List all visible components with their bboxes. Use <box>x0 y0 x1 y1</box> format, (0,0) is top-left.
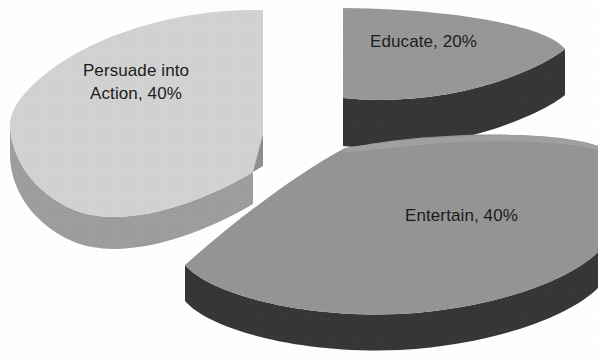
slice-label-educate: Educate, 20% <box>370 31 520 54</box>
slice-label-entertain-line1: Entertain, 40% <box>405 205 580 228</box>
slice-label-entertain: Entertain, 40% <box>405 205 580 228</box>
slice-top-persuade <box>10 10 263 217</box>
slice-label-educate-line1: Educate, 20% <box>370 31 520 54</box>
slice-label-persuade-into-action: Persuade into Action, 40% <box>56 60 216 106</box>
pie-chart-svg <box>0 0 598 360</box>
slice-label-persuade-line1: Persuade into <box>56 60 216 83</box>
pie-chart-figure: Persuade into Action, 40% Educate, 20% E… <box>0 0 598 360</box>
slice-label-persuade-line2: Action, 40% <box>56 83 216 106</box>
